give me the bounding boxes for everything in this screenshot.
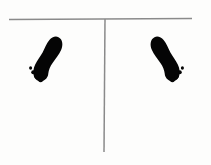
footprint-toe-dot-2 [31, 70, 35, 74]
footprint-toe-dot-1 [29, 66, 32, 70]
footprint-toe-dot-4 [38, 77, 43, 82]
footprint-toe-dot-3 [34, 74, 38, 79]
footprint-toe-dot-1 [181, 66, 184, 70]
footprint-toe-dot-4 [170, 77, 175, 82]
horizontal-baseline [9, 19, 192, 20]
footprint-toe-dot-2 [178, 70, 182, 74]
vertical-centerline [104, 19, 105, 152]
footprints-diagram [0, 0, 211, 165]
footprint-toe-dot-3 [174, 74, 178, 79]
diagram-canvas [0, 0, 211, 165]
